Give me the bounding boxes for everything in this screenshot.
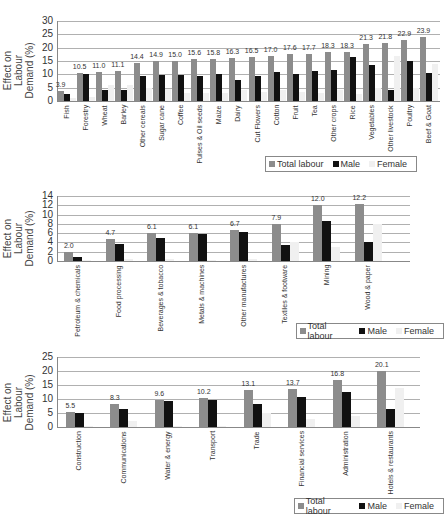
data-label: 13.7 [278, 379, 308, 386]
bar-total-labour [199, 398, 208, 427]
bar-total-labour [155, 400, 164, 427]
bar-total-labour [244, 390, 253, 427]
legend-label: Total labour [306, 496, 351, 516]
legend-item: Male [359, 501, 387, 511]
gridline [57, 357, 420, 358]
category-label: Communications [120, 431, 127, 488]
legend-label: Female [404, 501, 434, 511]
bar-female [84, 426, 93, 427]
bar-female [262, 413, 271, 427]
data-label: 16.8 [322, 370, 352, 377]
x-axis-line [57, 427, 420, 428]
data-label: 20.1 [367, 361, 397, 368]
data-label: 10.2 [189, 388, 219, 395]
legend-item: Total labour [298, 496, 350, 516]
chart-3: Effect on Labour Demand (%)05101520255.5… [0, 0, 444, 519]
bar-total-labour [288, 389, 297, 427]
data-label: 13.1 [233, 380, 263, 387]
bar-male [119, 409, 128, 427]
legend-swatch [396, 503, 402, 509]
category-label: Construction [75, 431, 82, 480]
y-axis-line [57, 357, 58, 427]
category-label: Water & energy [164, 431, 171, 488]
y-tick-label: 0 [35, 421, 53, 432]
bar-female [173, 426, 182, 427]
legend-item: Female [396, 501, 434, 511]
bar-total-labour [66, 412, 75, 427]
bar-male [208, 400, 217, 427]
y-tick-label: 15 [35, 379, 53, 390]
bar-male [75, 413, 84, 427]
data-label: 5.5 [55, 402, 85, 409]
data-label: 8.3 [100, 394, 130, 401]
gridline [57, 371, 420, 372]
bar-male [297, 397, 306, 427]
bar-total-labour [110, 404, 119, 427]
category-label: Transport [209, 431, 216, 468]
bar-male [253, 404, 262, 427]
bar-total-labour [333, 380, 342, 427]
legend-label: Male [367, 501, 387, 511]
y-tick-label: 25 [35, 351, 53, 362]
bar-male [342, 392, 351, 427]
bar-male [386, 409, 395, 427]
bar-female [395, 388, 404, 427]
category-label: Trade [253, 431, 260, 453]
y-tick-label: 10 [35, 393, 53, 404]
chart-legend: Total labourMaleFemale [294, 498, 444, 514]
y-axis-label: Effect on Labour Demand (%) [2, 368, 35, 438]
legend-swatch [298, 503, 304, 509]
bar-female [306, 419, 315, 427]
category-label: Administration [342, 431, 349, 488]
legend-swatch [359, 503, 365, 509]
bar-total-labour [377, 371, 386, 427]
y-tick-label: 20 [35, 365, 53, 376]
data-label: 9.6 [144, 390, 174, 397]
bar-male [164, 401, 173, 427]
bar-female [128, 421, 137, 427]
category-label: Financial services [298, 431, 305, 503]
bar-female [217, 426, 226, 427]
bar-female [351, 416, 360, 427]
y-tick-label: 5 [35, 407, 53, 418]
